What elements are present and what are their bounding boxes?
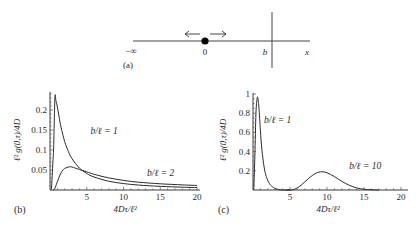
panel-c-label: (c) — [218, 204, 229, 216]
x-axis-title: 4Dτ/ℓ² — [113, 204, 136, 214]
figure: −∞ 0 b x (a) 51015200.050.10.150.24Dτ/ℓ²… — [0, 0, 418, 228]
series-line — [286, 172, 379, 190]
y-tick-label: 0.8 — [239, 108, 251, 118]
panel-a-label: (a) — [123, 60, 133, 70]
origin-label: 0 — [203, 47, 208, 57]
chart-b: 51015200.050.10.150.24Dτ/ℓ²ℓ² g(0,τ)/4Db… — [12, 92, 202, 214]
chart-c: 51015200.20.40.60.814Dτ/ℓ²ℓ² g(0,τ)/4Db/… — [218, 89, 408, 214]
curve-annotation: b/ℓ = 10 — [349, 161, 381, 171]
x-tick-label: 10 — [119, 192, 129, 202]
y-axis-title: ℓ² g(0,τ)/4D — [12, 118, 22, 161]
y-tick-label: 0.4 — [239, 147, 251, 157]
curve-annotation: b/ℓ = 2 — [147, 168, 175, 178]
curve-annotation: b/ℓ = 1 — [90, 126, 117, 136]
minus-infinity-label: −∞ — [125, 46, 137, 56]
x-tick-label: 10 — [323, 192, 333, 202]
x-tick-label: 5 — [85, 192, 90, 202]
left-arrow-icon — [185, 31, 200, 37]
right-arrow-icon — [210, 31, 226, 37]
curve-annotation: b/ℓ = 1 — [264, 115, 291, 125]
panel-b-label: (b) — [14, 204, 26, 216]
y-tick-label: 0.1 — [36, 145, 47, 155]
y-tick-label: 0.2 — [239, 166, 250, 176]
x-tick-label: 15 — [156, 192, 166, 202]
y-tick-label: 0.2 — [36, 105, 47, 115]
barrier-label: b — [263, 47, 268, 57]
x-axis-title: 4Dτ/ℓ² — [316, 204, 339, 214]
x-axis-label: x — [304, 47, 309, 57]
particle-dot — [201, 37, 208, 44]
x-tick-label: 15 — [360, 192, 370, 202]
x-tick-label: 20 — [193, 192, 203, 202]
y-axis-title: ℓ² g(0,τ)/4D — [218, 118, 228, 161]
series-line — [51, 95, 197, 190]
series-line — [254, 97, 290, 190]
x-tick-label: 20 — [397, 192, 407, 202]
y-tick-label: 0.6 — [239, 127, 251, 137]
y-tick-label: 0.15 — [31, 125, 47, 135]
x-tick-label: 5 — [288, 192, 293, 202]
panel-a-diagram: −∞ 0 b x (a) — [123, 12, 310, 70]
y-tick-label: 0.05 — [31, 165, 47, 175]
y-tick-label: 1 — [246, 89, 251, 99]
